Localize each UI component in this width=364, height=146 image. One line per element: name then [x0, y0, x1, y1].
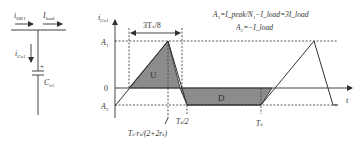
diagram: iDR1 Iload iCo1 + Co1 3Tₛ/8 iCo1 t A1 0 — [0, 0, 364, 146]
half-period-label: Tₛ/2 — [176, 117, 189, 126]
y-tick-a2: A2 — [100, 102, 109, 112]
x-axis-label: t — [346, 96, 349, 105]
y-axis-label: iCo1 — [98, 13, 109, 23]
capacitor-label: Co1 — [44, 78, 55, 88]
region-up — [129, 41, 180, 88]
region-down-label: D — [218, 93, 225, 103]
current-load-label: Iload — [42, 11, 55, 21]
polarity-plus: + — [40, 63, 44, 71]
period-label: Tₛ — [256, 119, 263, 128]
dimension-label: 3Tₛ/8 — [143, 21, 161, 30]
current-in-label: iDR1 — [14, 11, 26, 21]
region-down — [180, 88, 272, 105]
circuit-schematic: iDR1 Iload iCo1 + Co1 — [11, 11, 66, 115]
y-tick-a1: A1 — [100, 38, 109, 48]
y-tick-zero: 0 — [104, 84, 108, 93]
equation-a2: A₂=−I_load — [235, 23, 273, 32]
peak-time-leader — [165, 118, 168, 124]
current-cap-label: iCo1 — [15, 49, 26, 59]
peak-time-label: Tₛ·rₛ/(2+2rₛ) — [128, 129, 168, 138]
region-up-label: U — [150, 70, 157, 80]
equation-a1: A₁=I_peak/N₁−I_load=3I_load — [212, 10, 309, 19]
waveform-plot: 3Tₛ/8 iCo1 t A1 0 A2 U D Tₛ/2 Tₛ Tₛ·rₛ/(… — [98, 10, 352, 138]
